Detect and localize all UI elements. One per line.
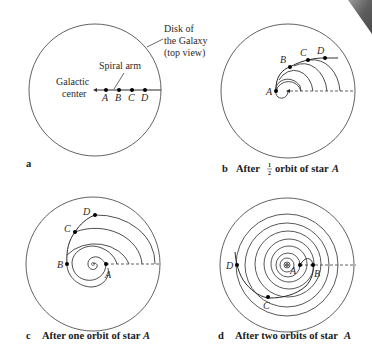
orbit-arc-b (279, 70, 313, 91)
fraction-numerator: 1 (268, 162, 271, 168)
inner-spiral (88, 257, 106, 270)
star-b-label: B (280, 54, 286, 65)
spiral-arm-leader (114, 73, 124, 89)
panel-b: A B C D b After 1 2 orbit of star A (221, 24, 355, 176)
galactic-center-label-1: Galactic (56, 76, 90, 87)
star-a-dot (298, 263, 302, 267)
disk-label-2: the Galaxy (164, 35, 208, 46)
panel-a: A B C D Spiral arm Galactic center Disk … (26, 23, 208, 169)
star-b-label: B (314, 268, 320, 279)
star-d-dot (93, 213, 97, 217)
panel-b-caption-suffix: orbit of star (275, 163, 329, 174)
star-c-dot (73, 230, 77, 234)
star-b-dot (288, 65, 292, 69)
panel-c-caption: After one orbit of star (42, 330, 141, 341)
star-d-label: D (225, 260, 234, 271)
star-c-label: C (64, 223, 71, 234)
panel-d-letter: d (218, 330, 224, 341)
panel-c: A B C D c After one orbit of star A (26, 197, 160, 341)
panel-b-caption-star: A (331, 163, 339, 174)
star-b-label: B (57, 259, 63, 270)
star-a-label: A (265, 86, 273, 97)
panel-d-caption-star: A (343, 330, 351, 341)
panel-a-letter: a (26, 158, 32, 169)
star-a-label: A (104, 269, 112, 280)
fraction-denominator: 2 (268, 170, 271, 176)
star-c-dot (266, 295, 270, 299)
star-d-label: D (316, 45, 325, 56)
disk-label-3: (top view) (164, 47, 205, 59)
galactic-center-label-2: center (62, 88, 87, 99)
star-d-label: D (82, 206, 91, 217)
panel-d-caption: After two orbits of star (235, 330, 338, 341)
star-c-label: C (300, 47, 307, 58)
star-c-label: C (128, 92, 135, 103)
panel-c-letter: c (26, 330, 31, 341)
disk-label-1: Disk of (164, 23, 194, 34)
winding-dilemma-diagram: A B C D Spiral arm Galactic center Disk … (0, 0, 372, 347)
orbit-loop-b (67, 264, 108, 287)
panel-b-letter: b (222, 163, 228, 174)
star-a-label: A (101, 92, 109, 103)
star-d-dot (323, 56, 327, 60)
galactic-center-marker (93, 88, 97, 92)
star-b-dot (311, 263, 315, 267)
spiral-arm-label: Spiral arm (99, 60, 141, 71)
inner-orbit-arc (276, 79, 301, 98)
star-a-dot (104, 262, 108, 266)
star-c-label: C (263, 300, 270, 311)
star-c-dot (306, 58, 310, 62)
spiral-arm-curve (67, 215, 95, 264)
panel-b-caption-prefix: After (236, 163, 260, 174)
spiral-arm-curve (235, 252, 313, 298)
page-corner-decoration (348, 0, 372, 34)
panel-d: A B C D d After two orbits of star A (218, 198, 356, 341)
galactic-center-marker (285, 263, 288, 266)
orbit-arc-d (310, 60, 340, 91)
star-a-label: A (289, 265, 297, 276)
star-b-label: B (115, 92, 121, 103)
panel-c-caption-star: A (142, 330, 150, 341)
star-d-dot (235, 263, 239, 267)
star-b-dot (65, 262, 69, 266)
star-a-dot (274, 89, 278, 93)
disk-leader (147, 39, 163, 47)
star-d-label: D (140, 92, 149, 103)
